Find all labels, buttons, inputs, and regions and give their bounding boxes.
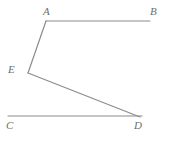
vertex-label-d: D bbox=[134, 120, 142, 131]
vertex-label-b: B bbox=[150, 6, 157, 17]
vertex-label-e: E bbox=[8, 64, 15, 75]
vertex-label-a: A bbox=[43, 6, 50, 17]
vertex-label-c: C bbox=[6, 120, 13, 131]
segment-ae bbox=[28, 21, 46, 73]
segment-ed bbox=[28, 73, 140, 117]
geometry-figure: A B C D E bbox=[0, 0, 169, 146]
segments-group bbox=[8, 21, 150, 117]
geometry-canvas bbox=[0, 0, 169, 146]
